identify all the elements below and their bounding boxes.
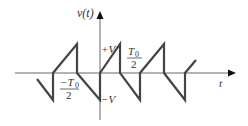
half-period-label: T 0 2 bbox=[127, 45, 142, 70]
x-axis-arrow-icon bbox=[228, 70, 236, 77]
sawtooth-diagram: v(t) t +V −V −T 0 2 T 0 2 bbox=[0, 0, 248, 126]
y-axis-arrow-icon bbox=[97, 11, 104, 19]
svg-text:2: 2 bbox=[131, 58, 137, 70]
x-axis-label: t bbox=[219, 77, 223, 89]
svg-text:−T: −T bbox=[60, 76, 74, 88]
svg-text:T: T bbox=[128, 45, 135, 57]
plus-v-label: +V bbox=[101, 43, 116, 55]
minus-v-label: −V bbox=[101, 93, 116, 105]
svg-text:2: 2 bbox=[66, 89, 72, 101]
y-axis-label: v(t) bbox=[77, 6, 94, 20]
neg-half-period-label: −T 0 2 bbox=[60, 76, 79, 101]
sawtooth-waveform bbox=[37, 44, 196, 100]
